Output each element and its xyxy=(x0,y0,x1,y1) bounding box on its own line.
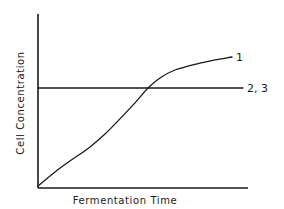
x-axis-title: Fermentation Time xyxy=(73,195,178,206)
series-1-curve xyxy=(38,57,232,186)
y-axis-title: Cell Concentration xyxy=(15,51,26,154)
series-2-3-label: 2, 3 xyxy=(247,82,268,95)
series-1-label: 1 xyxy=(236,51,243,64)
chart-canvas: 1 2, 3 Fermentation Time Cell Concentrat… xyxy=(0,0,284,209)
